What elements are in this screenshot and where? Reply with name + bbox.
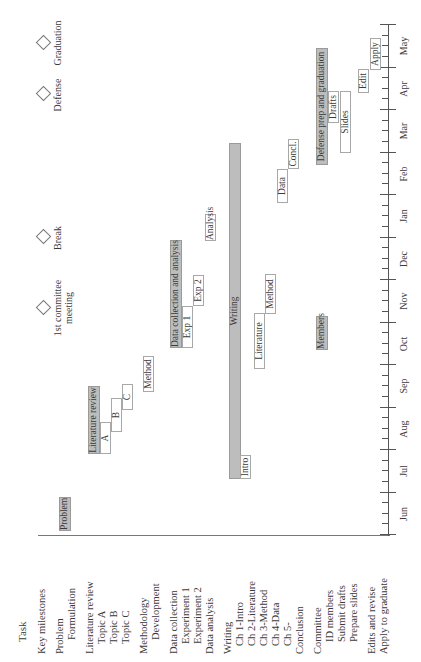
bar-ch1-intro: Intro — [240, 455, 251, 479]
task-label: Data analysis — [204, 598, 216, 654]
task-label: Problem — [54, 618, 66, 654]
month-label-sep: Sep — [398, 366, 409, 406]
diamond-icon — [36, 229, 52, 245]
month-tick — [380, 67, 396, 68]
milestone-label: Defense — [52, 73, 63, 117]
month-tick — [380, 109, 396, 110]
task-column-header: Task — [16, 621, 28, 642]
task-label: Apply to graduate — [378, 578, 390, 654]
task-label: Topic A — [96, 611, 108, 644]
month-tick — [380, 322, 396, 323]
diamond-icon — [36, 35, 52, 51]
month-label-oct: Oct — [398, 324, 409, 364]
bar-topic-b: B — [111, 398, 122, 432]
month-tick — [380, 534, 396, 535]
milestone-label: Graduation — [52, 17, 63, 69]
task-label: Experiment 1 — [180, 587, 192, 644]
bar-experiment-2: Exp 2 — [193, 275, 204, 306]
task-label: Topic B — [108, 611, 120, 644]
task-label: Topic C — [120, 611, 132, 644]
month-tick — [380, 194, 396, 195]
milestone-label: Break — [52, 218, 63, 258]
task-label: Ch 5- — [282, 622, 294, 646]
bar-literature-review: Literature review — [88, 386, 100, 454]
month-label-jun: Jun — [398, 494, 409, 534]
label-separator-line — [38, 535, 390, 536]
month-tick — [380, 152, 396, 153]
month-tick — [380, 279, 396, 280]
task-label: Edits and revise — [366, 587, 378, 654]
task-label: Data collection — [168, 590, 180, 654]
task-label: Formulation — [66, 588, 78, 640]
task-label: Ch 2-Literature — [246, 581, 258, 646]
month-label-jan: Jan — [398, 196, 409, 236]
bar-experiment-1: Exp 1 — [182, 306, 193, 348]
task-label: Prepare slides — [348, 583, 360, 642]
gantt-chart: Task Jun Jul Aug Sep Oct — [0, 0, 421, 662]
bar-topic-a: A — [100, 422, 111, 454]
task-label: Writing — [222, 622, 234, 654]
month-label-aug: Aug — [398, 409, 409, 449]
bar-defense-prep-and-graduation: Defense prep and graduation — [316, 48, 328, 165]
bar-writing: Writing — [229, 143, 241, 479]
month-label-may: May — [398, 26, 409, 66]
bar-ch4-data: Data — [277, 169, 288, 203]
task-label: Development — [150, 583, 162, 640]
month-label-dec: Dec — [398, 239, 409, 279]
bar-prepare-slides: Slides — [340, 91, 351, 153]
diamond-icon — [36, 86, 52, 102]
task-label: Conclusion — [294, 606, 306, 654]
bar-submit-drafts: Drafts — [328, 91, 339, 123]
time-axis-line — [388, 24, 389, 536]
month-label-feb: Feb — [398, 154, 409, 194]
bar-edits-and-revise: Edit — [358, 69, 369, 93]
month-tick — [380, 237, 396, 238]
task-label: Methodology — [138, 597, 150, 654]
bar-apply-to-graduate: Apply — [370, 38, 381, 70]
month-tick — [380, 364, 396, 365]
bar-ch3-method: Method — [265, 274, 276, 314]
month-label-nov: Nov — [398, 281, 409, 321]
month-label-apr: Apr — [398, 69, 409, 109]
task-label: Ch 4-Data — [270, 603, 282, 646]
task-label: Committee — [312, 607, 324, 654]
task-label: Literature review — [84, 581, 96, 654]
bar-ch2-literature: Literature — [254, 313, 265, 369]
month-tick — [380, 407, 396, 408]
task-label: ID members — [324, 590, 336, 642]
bar-method-development: Method — [143, 356, 154, 392]
task-label: Key milestones — [36, 589, 48, 654]
bar-data-analysis: Analysis — [205, 214, 216, 241]
bar-data-collection-and-analysis: Data collection and analysis — [170, 240, 182, 348]
task-label: Experiment 2 — [192, 587, 204, 644]
task-label: Ch 3-Method — [258, 590, 270, 646]
month-label-jul: Jul — [398, 451, 409, 491]
diamond-icon — [36, 300, 52, 316]
bar-ch5-conclusion: Concl. — [288, 139, 299, 169]
task-label: Ch 1-Intro — [234, 602, 246, 646]
month-tick — [380, 24, 396, 25]
bar-topic-c: C — [122, 384, 133, 410]
task-label: Submit drafts — [336, 585, 348, 642]
milestone-label: 1st committeemeeting — [52, 276, 74, 340]
month-tick — [380, 449, 396, 450]
bar-committee-members: Members — [316, 316, 328, 350]
month-tick — [380, 492, 396, 493]
bar-problem: Problem — [59, 497, 71, 531]
month-label-mar: Mar — [398, 111, 409, 151]
